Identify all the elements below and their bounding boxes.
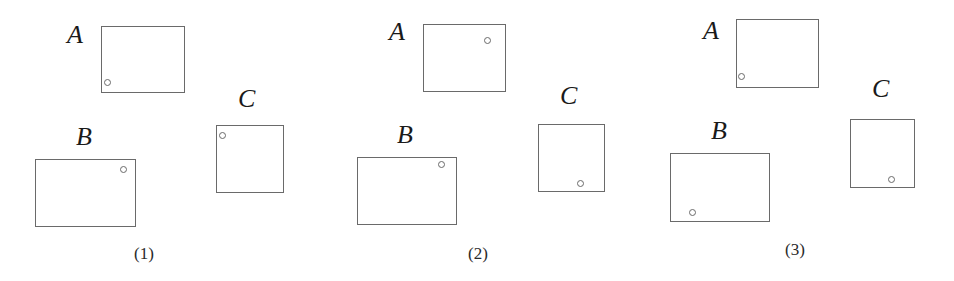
circle-marker (888, 176, 895, 183)
circle-marker (484, 37, 491, 44)
label-b: B (711, 118, 727, 144)
label-c: C (872, 76, 889, 102)
circle-marker (219, 132, 226, 139)
caption-1: (1) (134, 244, 154, 264)
label-c: C (560, 83, 577, 109)
label-c: C (238, 86, 255, 112)
circle-marker (120, 166, 127, 173)
circle-marker (738, 73, 745, 80)
caption-2: (2) (468, 244, 488, 264)
figure: A B C (1) A B C (2) A B C (3) (0, 0, 954, 281)
rect-a (101, 26, 185, 93)
rect-a (736, 19, 819, 88)
label-a: A (67, 22, 83, 48)
label-b: B (76, 124, 92, 150)
rect-a (423, 24, 506, 92)
rect-c (850, 119, 915, 188)
rect-c (538, 124, 605, 192)
label-b: B (397, 122, 413, 148)
label-a: A (389, 19, 405, 45)
caption-3: (3) (785, 240, 805, 260)
circle-marker (438, 161, 445, 168)
rect-c (216, 125, 284, 193)
circle-marker (104, 79, 111, 86)
rect-b (670, 153, 770, 222)
circle-marker (577, 180, 584, 187)
label-a: A (703, 18, 719, 44)
circle-marker (689, 209, 696, 216)
